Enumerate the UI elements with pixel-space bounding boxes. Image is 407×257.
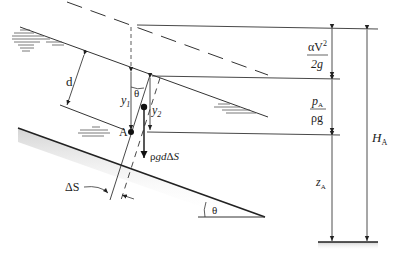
pressure-head-label: pA ρg — [310, 94, 326, 125]
top-angle-label: θ — [134, 87, 139, 99]
water-hatch-lower — [78, 127, 110, 136]
bed-angle-label: θ — [212, 204, 217, 216]
y1-label: y1 — [120, 93, 130, 109]
svg-text:pA: pA — [311, 94, 323, 109]
water-surface — [20, 27, 268, 117]
depth-label: d — [66, 74, 73, 89]
svg-text:2g: 2g — [311, 57, 323, 71]
delta-s-label: ΔS — [65, 180, 79, 194]
elevation-label: zA — [315, 175, 326, 191]
datum-line — [318, 242, 378, 250]
weight-force — [141, 104, 147, 158]
point-a-level-line — [147, 132, 340, 135]
energy-diagram: θ d y1 θ y2 — [0, 0, 407, 257]
weight-label: ρgdΔS — [150, 150, 180, 162]
depth-reference-line — [60, 105, 125, 130]
channel-bed — [18, 128, 265, 217]
total-head-label: HA — [371, 130, 387, 147]
point-a-label: A — [119, 125, 128, 139]
svg-text:αV2: αV2 — [308, 39, 327, 54]
energy-grade-line — [67, 2, 268, 75]
point-a-marker — [128, 129, 134, 135]
hgl-level-line — [152, 76, 340, 79]
velocity-head-label: αV2 2g — [307, 39, 328, 71]
svg-text:ρg: ρg — [311, 111, 323, 125]
egl-level-line — [137, 25, 378, 29]
y2-label: y2 — [151, 103, 161, 119]
